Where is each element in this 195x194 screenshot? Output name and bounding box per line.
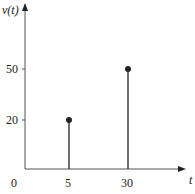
stem-chart: v(t) t 50 20 0 5 30 [0,0,195,194]
stem-marker-t30 [125,66,131,72]
ytick-50-label: 50 [6,62,18,76]
xtick-5-label: 5 [65,176,71,190]
y-axis-arrow-icon [22,3,28,11]
ytick-20-label: 20 [6,113,18,127]
origin-label: 0 [11,176,17,190]
x-axis-label: t [189,173,193,187]
stem-marker-t5 [66,117,72,123]
xtick-30-label: 30 [121,176,133,190]
y-axis-label: v(t) [2,3,19,17]
x-axis-arrow-icon [178,166,186,172]
